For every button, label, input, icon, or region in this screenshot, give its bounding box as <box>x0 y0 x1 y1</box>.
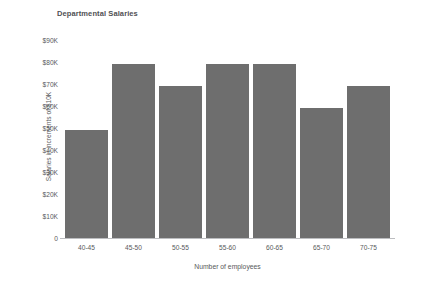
y-axis-tick-labels: $90K$80K$70K$60K$50K$40K$30K$20K$10K0 <box>0 0 58 284</box>
y-axis-tick-label: $90K <box>2 37 58 44</box>
y-axis-tick-label: $70K <box>2 81 58 88</box>
x-axis-tick-label: 55-60 <box>204 244 251 251</box>
x-axis-tick-label: 65-70 <box>298 244 345 251</box>
y-axis-tick-label: $30K <box>2 169 58 176</box>
x-axis-title: Number of employees <box>63 263 392 270</box>
y-axis-tick-label: $10K <box>2 213 58 220</box>
bar-chart: Departmental Salaries Salaries in increm… <box>0 0 427 284</box>
x-axis-tick-label: 45-50 <box>110 244 157 251</box>
y-axis-tick-label: $20K <box>2 191 58 198</box>
x-axis-tick-label: 70-75 <box>345 244 392 251</box>
y-axis-tick-label: $40K <box>2 147 58 154</box>
y-axis-tick-label: $60K <box>2 103 58 110</box>
y-axis-tick-label: 0 <box>2 235 58 242</box>
x-axis-tick-label: 40-45 <box>63 244 110 251</box>
y-axis-tick-label: $50K <box>2 125 58 132</box>
y-axis-tick-label: $80K <box>2 59 58 66</box>
x-axis-tick-label: 50-55 <box>157 244 204 251</box>
x-axis-tick-label: 60-65 <box>251 244 298 251</box>
x-axis-tick-labels: 40-4545-5050-5555-6060-6565-7070-75 <box>63 0 392 284</box>
